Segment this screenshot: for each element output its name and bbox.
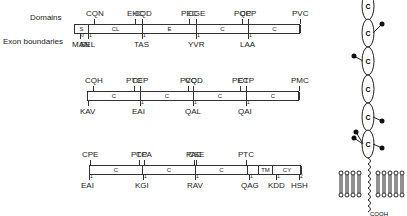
svg-text:C: C <box>365 114 370 121</box>
svg-text:C: C <box>365 58 370 65</box>
svg-text:C: C <box>365 141 370 148</box>
svg-text:C: C <box>365 86 370 93</box>
diagram: Domains Exon boundaries SCLECCCQNEHCCQDP… <box>0 0 407 216</box>
svg-text:C: C <box>365 30 370 37</box>
svg-text:C: C <box>365 3 370 10</box>
svg-text:COOH: COOH <box>370 211 388 216</box>
protein-schematic: CCCCCCCOOH <box>0 0 407 216</box>
